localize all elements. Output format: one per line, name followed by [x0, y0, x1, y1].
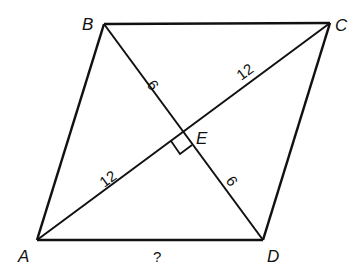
vertex-label-c: C	[335, 16, 348, 35]
segment-label-ad: ?	[153, 248, 161, 265]
vertex-label-d: D	[267, 247, 279, 266]
vertex-label-a: A	[17, 247, 29, 266]
side-cd	[263, 23, 330, 240]
side-ab	[37, 24, 104, 240]
vertex-label-e: E	[196, 129, 208, 148]
side-bc	[104, 23, 330, 24]
rhombus-diagram: A B C D E 9 9 12 12 ?	[0, 0, 364, 272]
vertex-label-b: B	[82, 15, 93, 34]
right-angle-marker	[171, 141, 192, 154]
segment-label-ed: 9	[222, 173, 241, 190]
diagonal-bd	[104, 24, 263, 240]
segment-label-ae: 12	[96, 167, 119, 191]
segment-label-be: 9	[143, 77, 162, 94]
